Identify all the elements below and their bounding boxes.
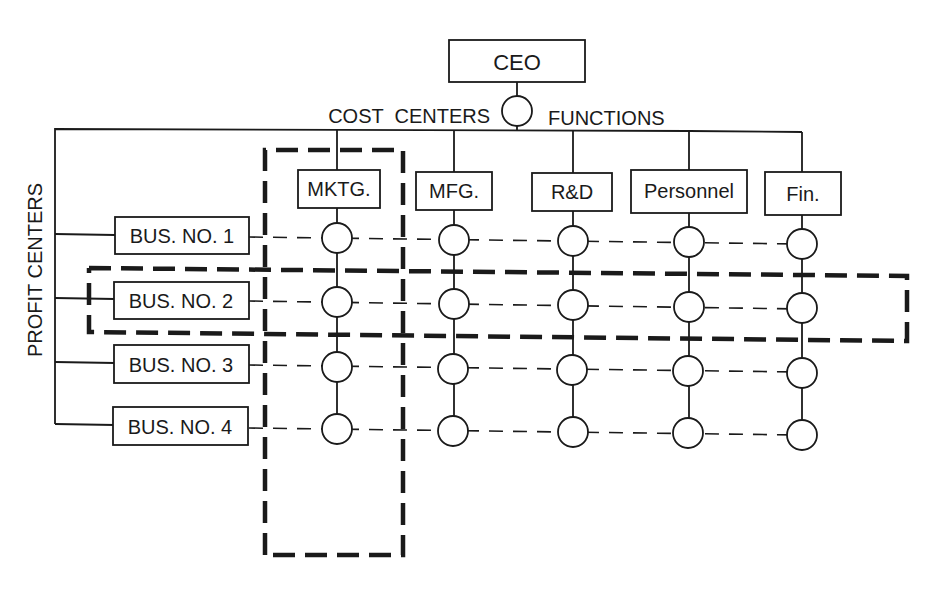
ceo-label: CEO	[493, 50, 541, 75]
node-bus4-fin	[787, 420, 817, 450]
node-bus2-personnel	[674, 292, 704, 322]
function-label: Fin.	[786, 183, 819, 205]
node-bus4-mfg	[438, 416, 468, 446]
function-label: MKTG.	[307, 178, 370, 200]
node-bus4-personnel	[673, 418, 703, 448]
bus4-branch-line	[55, 424, 115, 425]
node-bus4-mktg	[322, 414, 352, 444]
business-label: BUS. NO. 2	[129, 290, 233, 312]
node-bus2-fin	[787, 293, 817, 323]
business-label: BUS. NO. 3	[129, 354, 233, 376]
node-bus1-personnel	[674, 227, 704, 257]
function-fin: Fin.	[765, 172, 841, 215]
node-bus1-mktg	[322, 223, 352, 253]
node-bus1-fin	[787, 229, 817, 259]
ceo-node: CEO	[449, 40, 585, 82]
function-label: R&D	[551, 181, 593, 203]
profit-centers-label: PROFIT CENTERS	[24, 183, 46, 357]
bus1-branch-line	[55, 234, 115, 235]
business-1: BUS. NO. 1	[115, 217, 249, 254]
node-bus3-mfg	[438, 354, 468, 384]
function-mktg: MKTG.	[298, 170, 380, 208]
function-personnel: Personnel	[631, 170, 747, 213]
ceo-hub-circle	[502, 96, 532, 126]
node-bus3-mktg	[322, 352, 352, 382]
functions-label: FUNCTIONS	[548, 107, 665, 129]
bus3-branch-line	[55, 362, 115, 363]
node-bus4-rd	[558, 417, 588, 447]
node-bus3-fin	[787, 358, 817, 388]
function-mfg: MFG.	[416, 172, 492, 210]
business-2: BUS. NO. 2	[114, 282, 249, 319]
business-4: BUS. NO. 4	[113, 407, 248, 445]
node-bus1-rd	[558, 226, 588, 256]
node-bus3-rd	[557, 355, 587, 385]
node-bus1-mfg	[439, 225, 469, 255]
cost-centers-label: COST CENTERS	[328, 105, 490, 127]
function-rd: R&D	[532, 173, 612, 211]
matrix-org-diagram: CEO COST CENTERS FUNCTIONS PROFIT CENTER…	[0, 0, 947, 594]
business-label: BUS. NO. 4	[128, 416, 232, 438]
business-label: BUS. NO. 1	[130, 225, 234, 247]
node-bus2-rd	[558, 290, 588, 320]
business-3: BUS. NO. 3	[114, 345, 249, 383]
node-bus2-mktg	[322, 287, 352, 317]
function-label: MFG.	[429, 180, 479, 202]
function-label: Personnel	[644, 180, 734, 202]
node-bus3-personnel	[673, 356, 703, 386]
node-bus2-mfg	[439, 289, 469, 319]
bus2-branch-line	[55, 298, 115, 299]
